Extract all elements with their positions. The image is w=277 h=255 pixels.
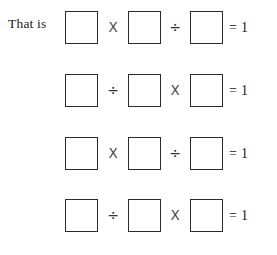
operator-multiply-icon: X [163, 199, 187, 232]
result-value: 1 [241, 20, 248, 35]
equation-result: =1 [229, 11, 248, 44]
answer-box[interactable] [65, 74, 98, 107]
answer-box[interactable] [190, 74, 223, 107]
result-value: 1 [241, 146, 248, 161]
equation-row: ÷ X =1 [0, 73, 277, 109]
equals-sign: = [229, 20, 237, 35]
equals-sign: = [229, 208, 237, 223]
operator-divide-icon: ÷ [163, 11, 187, 44]
equation-worksheet: That is X ÷ =1 ÷ X =1 X ÷ =1 [0, 0, 277, 255]
result-value: 1 [241, 208, 248, 223]
operator-divide-icon: ÷ [101, 74, 125, 107]
operator-multiply-icon: X [101, 11, 125, 44]
operator-multiply-icon: X [163, 74, 187, 107]
answer-box[interactable] [190, 137, 223, 170]
answer-box[interactable] [190, 199, 223, 232]
answer-box[interactable] [65, 11, 98, 44]
equation-row: ÷ X =1 [0, 198, 277, 234]
answer-box[interactable] [190, 11, 223, 44]
lead-in-label: That is [8, 14, 47, 34]
equation-row: X ÷ =1 [0, 136, 277, 172]
operator-divide-icon: ÷ [101, 199, 125, 232]
answer-box[interactable] [128, 137, 161, 170]
answer-box[interactable] [65, 137, 98, 170]
equals-sign: = [229, 146, 237, 161]
operator-divide-icon: ÷ [163, 137, 187, 170]
equation-result: =1 [229, 199, 248, 232]
equation-result: =1 [229, 74, 248, 107]
equation-result: =1 [229, 137, 248, 170]
equation-row: That is X ÷ =1 [0, 10, 277, 46]
answer-box[interactable] [65, 199, 98, 232]
answer-box[interactable] [128, 74, 161, 107]
result-value: 1 [241, 83, 248, 98]
equals-sign: = [229, 83, 237, 98]
answer-box[interactable] [128, 199, 161, 232]
operator-multiply-icon: X [101, 137, 125, 170]
answer-box[interactable] [128, 11, 161, 44]
